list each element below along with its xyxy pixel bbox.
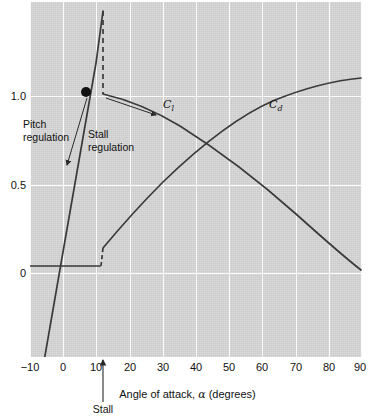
gridline-x-0 (63, 2, 64, 357)
ytick-label-0: 0 (0, 267, 26, 279)
gridline-x-60 (262, 2, 263, 357)
stall-callout-label: Stall (78, 403, 128, 415)
xtick-label-60: 60 (247, 361, 277, 373)
cd-subscript: d (277, 104, 282, 113)
gridline-x-10 (96, 2, 97, 357)
gridline-x--10 (30, 2, 31, 357)
cd-stall-jump-dashed (101, 248, 103, 266)
stall-regulation-line1: Stall (88, 128, 158, 141)
xtick-label-40: 40 (181, 361, 211, 373)
cl-pre-stall-curve (30, 11, 103, 357)
xtick-label-0: 0 (48, 361, 78, 373)
x-axis-title-prefix: Angle of attack, (119, 388, 198, 400)
stall-regulation-annotation: Stall regulation (88, 128, 158, 153)
xtick-label-20: 20 (115, 361, 145, 373)
gridline-y-0 (30, 273, 362, 274)
cd-post-stall-curve (103, 78, 361, 248)
cd-curve-label: Cd (269, 98, 283, 113)
xtick-label-80: 80 (314, 361, 344, 373)
pitch-regulation-line1: Pitch (23, 118, 89, 131)
ytick-label-0.5: 0.5 (0, 179, 26, 191)
xtick-label-30: 30 (148, 361, 178, 373)
gridline-y-0.5 (30, 185, 362, 186)
gridline-x-80 (329, 2, 330, 357)
x-axis-title: Angle of attack, α (degrees) (0, 388, 375, 401)
gridline-x-30 (163, 2, 164, 357)
gridline-y-1.0 (30, 96, 362, 97)
xtick-label-90: 90 (345, 361, 375, 373)
gridline-x-50 (229, 2, 230, 357)
xtick-label-50: 50 (214, 361, 244, 373)
gridline-x-20 (130, 2, 131, 357)
cl-post-stall-curve (103, 94, 361, 270)
stall-regulation-line2: regulation (88, 141, 158, 154)
xtick-label--10: −10 (15, 361, 45, 373)
stall-regulation-arrow (106, 98, 156, 115)
chart-figure: Cl Cd Pitch regulation Stall regulation … (0, 0, 375, 417)
pitch-regulation-annotation: Pitch regulation (23, 118, 89, 143)
plot-area: Cl Cd Pitch regulation Stall regulation (30, 2, 362, 357)
gridline-x-40 (196, 2, 197, 357)
pitch-regulation-line2: regulation (23, 131, 89, 144)
ytick-label-1.0: 1.0 (0, 90, 26, 102)
gridline-x-90 (361, 2, 362, 357)
gridline-x-70 (296, 2, 297, 357)
xtick-label-70: 70 (281, 361, 311, 373)
alpha-symbol: α (198, 388, 205, 401)
xtick-label-10: 10 (81, 361, 111, 373)
cl-curve-label: Cl (163, 98, 174, 113)
cl-subscript: l (171, 104, 174, 113)
x-axis-title-suffix: (degrees) (206, 388, 256, 400)
